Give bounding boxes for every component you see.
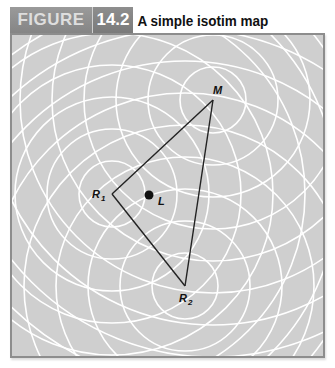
raw-material-label-R2: R2 [179, 292, 193, 307]
isotim-rings [12, 35, 323, 356]
market-label-M: M [213, 84, 223, 96]
edge-m-r1 [112, 100, 213, 194]
figure-header: FIGURE 14.2 A simple isotim map [10, 7, 283, 33]
figure-label: FIGURE [10, 7, 92, 33]
location-label-L: L [158, 195, 165, 207]
figure-number: 14.2 [93, 7, 133, 33]
isotim-map: M R1 R2 L [10, 33, 325, 358]
edge-r1-r2 [112, 194, 185, 286]
isotim-ring [116, 35, 310, 197]
isotim-map-canvas: M R1 R2 L [12, 35, 323, 356]
raw-material-label-R1: R1 [92, 188, 106, 203]
figure-title: A simple isotim map [133, 7, 268, 33]
optimal-location-dot [145, 191, 154, 200]
